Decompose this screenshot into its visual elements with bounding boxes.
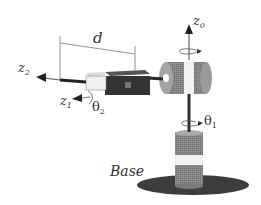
z2-arrow-icon [36,73,46,82]
arm-rod [148,78,163,79]
prismatic-slider [86,72,106,90]
theta1-label: θ1 [204,114,217,130]
z2-label: z2 [18,61,30,77]
z0-arrow-icon [185,24,193,34]
theta1-rotation-arrow-icon [181,121,200,126]
z1-label: z1 [60,94,72,110]
theta1-label-main: θ [204,113,212,128]
z2-label-sub: 2 [25,68,30,77]
z1-arrow-icon [72,94,82,102]
theta2-label: θ2 [92,100,105,116]
z0-label: z0 [193,14,205,30]
prismatic-rod [60,80,86,82]
theta2-label-sub: 2 [100,107,105,116]
z2-label-main: z [18,60,25,75]
z0-label-sub: 0 [200,21,205,30]
joint2-cylinder [159,62,212,94]
d-label: d [93,31,103,46]
arm-block [105,70,150,95]
base-label: Base [110,164,144,178]
z2-axis-line [44,78,60,80]
z0-label-main: z [193,13,200,28]
robot-diagram: z0 z2 z1 θ2 θ1 d Base [0,0,261,205]
base-cylinder [175,130,203,189]
z1-label-main: z [60,93,67,108]
z1-label-sub: 1 [67,101,72,110]
theta1-label-sub: 1 [212,121,217,130]
theta2-label-main: θ [92,99,100,114]
